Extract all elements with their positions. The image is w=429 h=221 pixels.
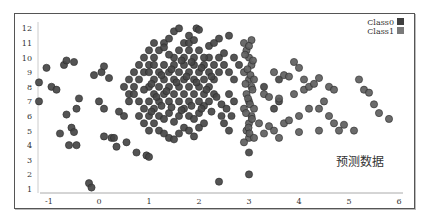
data-point-class0 xyxy=(150,120,157,127)
data-point-class0 xyxy=(190,36,197,43)
data-point-class0 xyxy=(135,112,142,119)
data-point-class0 xyxy=(75,95,82,102)
data-point-class0 xyxy=(56,130,63,137)
data-point-class1 xyxy=(330,120,337,127)
data-point-class0 xyxy=(135,98,142,105)
data-point-class0 xyxy=(178,57,185,64)
data-point-class0 xyxy=(150,54,157,61)
data-point-class0 xyxy=(178,107,185,114)
data-point-class0 xyxy=(235,61,242,68)
y-tick-label: 6 xyxy=(27,112,32,121)
data-point-class0 xyxy=(70,58,77,65)
data-point-class0 xyxy=(105,74,112,81)
data-point-class0 xyxy=(140,105,147,112)
y-tick-label: 10 xyxy=(22,54,32,63)
data-point-class0 xyxy=(170,118,177,125)
data-point-class0 xyxy=(63,57,70,64)
data-point-class0 xyxy=(230,76,237,83)
data-point-class0 xyxy=(220,50,227,57)
data-point-class0 xyxy=(200,120,207,127)
data-point-class0 xyxy=(193,79,200,86)
y-tick-label: 4 xyxy=(27,141,32,150)
data-point-class0 xyxy=(203,86,210,93)
data-point-class1 xyxy=(245,42,252,49)
data-point-class0 xyxy=(198,64,205,71)
data-point-class1 xyxy=(365,89,372,96)
scatter-plot: -10123456123456789101112 Class0Class1 预测… xyxy=(0,0,429,221)
data-point-class0 xyxy=(145,69,152,76)
data-point-class1 xyxy=(270,69,277,76)
data-point-class0 xyxy=(145,127,152,134)
data-point-class1 xyxy=(320,98,327,105)
data-point-class0 xyxy=(130,69,137,76)
data-point-class0 xyxy=(53,86,60,93)
data-point-class1 xyxy=(325,112,332,119)
data-point-class0 xyxy=(140,120,147,127)
data-point-class0 xyxy=(225,91,232,98)
x-tick-label: 1 xyxy=(146,197,151,206)
data-point-class0 xyxy=(170,91,177,98)
y-tick-label: 11 xyxy=(22,39,32,48)
data-point-class0 xyxy=(145,98,152,105)
data-point-class0 xyxy=(145,47,152,54)
data-point-class0 xyxy=(100,105,107,112)
data-point-class0 xyxy=(180,91,187,98)
y-tick-label: 1 xyxy=(27,185,32,194)
data-point-class1 xyxy=(249,86,256,93)
data-point-class0 xyxy=(230,54,237,61)
y-tick-label: 2 xyxy=(27,170,32,179)
data-point-class0 xyxy=(155,83,162,90)
data-point-class1 xyxy=(250,134,257,141)
data-point-class0 xyxy=(43,64,50,71)
data-point-class1 xyxy=(270,127,277,134)
data-point-class0 xyxy=(190,91,197,98)
data-point-class1 xyxy=(315,74,322,81)
data-point-class0 xyxy=(215,69,222,76)
data-point-class0 xyxy=(148,80,155,87)
data-point-class0 xyxy=(145,153,152,160)
data-point-class1 xyxy=(355,76,362,83)
data-point-class1 xyxy=(275,134,282,141)
data-point-class1 xyxy=(285,73,292,80)
data-point-class0 xyxy=(175,47,182,54)
data-point-class1 xyxy=(242,109,249,116)
data-point-class0 xyxy=(153,93,160,100)
data-point-class0 xyxy=(133,149,140,156)
data-point-class0 xyxy=(70,128,77,135)
data-point-class0 xyxy=(195,98,202,105)
data-point-class1 xyxy=(295,112,302,119)
data-point-class0 xyxy=(200,76,207,83)
data-point-class0 xyxy=(220,61,227,68)
data-point-class0 xyxy=(158,102,165,109)
data-point-class0 xyxy=(158,72,165,79)
data-point-class0 xyxy=(130,91,137,98)
data-point-class1 xyxy=(249,57,256,64)
data-point-class0 xyxy=(228,112,235,119)
data-point-class0 xyxy=(88,184,95,191)
data-point-class0 xyxy=(135,61,142,68)
data-point-class1 xyxy=(370,101,377,108)
data-point-class0 xyxy=(208,108,215,115)
data-point-class0 xyxy=(188,58,195,65)
data-point-class0 xyxy=(175,130,182,137)
data-point-class1 xyxy=(290,91,297,98)
data-point-class0 xyxy=(183,73,190,80)
y-tick-label: 12 xyxy=(22,24,32,33)
data-point-class0 xyxy=(213,93,220,100)
data-point-class0 xyxy=(168,66,175,73)
data-point-class1 xyxy=(385,115,392,122)
data-point-class0 xyxy=(230,98,237,105)
data-point-class0 xyxy=(140,54,147,61)
data-point-class0 xyxy=(120,112,127,119)
data-point-class0 xyxy=(220,120,227,127)
data-point-class0 xyxy=(195,47,202,54)
y-tick-label: 7 xyxy=(27,97,32,106)
data-point-class0 xyxy=(135,76,142,83)
data-point-class0 xyxy=(175,25,182,32)
annotation-label: 预测数据 xyxy=(336,154,384,169)
data-point-class1 xyxy=(315,127,322,134)
data-point-class1 xyxy=(260,130,267,137)
data-point-class0 xyxy=(175,69,182,76)
data-point-class0 xyxy=(215,178,222,185)
x-tick-label: 4 xyxy=(296,197,301,206)
